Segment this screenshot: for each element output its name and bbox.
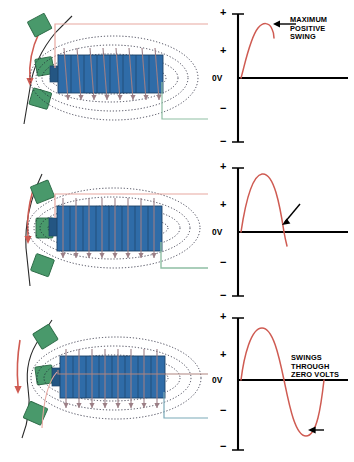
waveform-plot-1: + + 0V − − [196,2,354,154]
axis-label-negative-bottom: − [220,440,226,452]
axis-label-negative-mid: − [220,404,226,416]
axis-label-positive-mid: + [220,198,226,210]
panel-maximum-positive-swing: + + 0V − − MAXIMUM POSITIVE SWING [0,2,354,154]
panel-maximum-negative-swing: + + 0V − − MAXIMUM NEGATIVE SWING [0,308,354,460]
magnet-block [29,88,52,110]
axis-label-zero-volts: 0V [212,227,222,237]
axis-label-negative-mid: − [220,102,226,114]
generator-svg-2 [0,156,208,308]
axis-label-zero-volts: 0V [212,375,222,385]
magnet-block [27,13,52,37]
magnet-block [33,324,59,349]
voltage-waveform [241,328,324,436]
waveform-plot-2: + + 0V − − [196,156,354,308]
coil-core [58,55,163,93]
magnet-block [30,253,54,276]
callout-arrowhead [273,21,280,28]
winding-arrowheads [60,253,156,258]
callout-arrowhead [282,219,290,225]
annotation-maximum-positive-swing: MAXIMUM POSITIVE SWING [290,16,327,42]
waveform-plot-3: + + 0V − − [196,308,354,460]
coil-core [60,356,165,398]
winding-arrowheads [63,403,159,408]
rotor-rotation-arrow [17,340,20,386]
voltage-waveform [241,174,287,246]
axis-label-positive-mid: + [220,44,226,56]
coil-core [57,206,162,251]
axis-label-zero-volts: 0V [212,73,222,83]
axis-label-positive-top: + [220,310,226,322]
generator-diagram-1 [0,2,208,154]
voltage-waveform [241,24,274,78]
generator-diagram-2 [0,156,208,308]
axis-label-negative-bottom: − [220,135,226,147]
axis-label-positive-top: + [220,6,226,18]
panel-swings-through-zero-volts: + + 0V − − SWINGS THROUGH ZERO VOLTS [0,156,354,308]
axis-label-positive-top: + [220,160,226,172]
axis-label-negative-mid: − [220,256,226,268]
generator-svg-3 [0,308,208,460]
generator-diagram-3 [0,308,208,460]
generator-svg-1 [0,2,208,154]
figure-root: + + 0V − − MAXIMUM POSITIVE SWING [0,0,354,462]
magnet-block [30,180,54,204]
axis-label-positive-mid: + [220,348,226,360]
axis-label-negative-bottom: − [220,289,226,301]
rotor-rotation-arrowhead [14,386,21,394]
callout-arrow-line [285,204,300,222]
rotor-rotation-arrow [28,190,33,236]
